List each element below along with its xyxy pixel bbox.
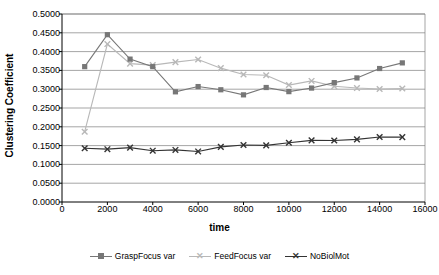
legend-item[interactable]: ✕NoBiolMot	[285, 251, 349, 261]
legend-marker-icon	[90, 252, 112, 261]
legend-marker-icon: ✕	[285, 252, 307, 261]
legend-label: NoBiolMot	[310, 251, 349, 261]
data-point-marker	[82, 64, 87, 69]
data-point-marker	[354, 75, 359, 80]
data-point-marker	[127, 57, 132, 62]
x-tick-label: 2000	[87, 205, 127, 214]
x-tick-label: 16000	[405, 205, 439, 214]
x-tick-label: 0	[42, 205, 82, 214]
data-point-marker	[173, 89, 178, 94]
x-tick-label: 6000	[178, 205, 218, 214]
data-point-marker	[196, 84, 201, 89]
data-point-marker	[150, 64, 155, 69]
legend-item[interactable]: ✕FeedFocus var	[189, 251, 271, 261]
data-point-marker	[286, 89, 291, 94]
data-point-marker	[105, 32, 110, 37]
data-point-marker	[264, 85, 269, 90]
data-point-marker	[400, 60, 405, 65]
data-point-marker	[241, 92, 246, 97]
data-point-marker	[377, 66, 382, 71]
legend-label: GraspFocus var	[115, 251, 175, 261]
clustering-coefficient-chart: Clustering Coefficient 0.00000.05000.100…	[0, 0, 439, 275]
data-point-marker	[332, 80, 337, 85]
chart-legend: GraspFocus var✕FeedFocus var✕NoBiolMot	[0, 251, 439, 261]
data-point-marker	[309, 85, 314, 90]
x-tick-label: 4000	[133, 205, 173, 214]
x-axis-title: time	[0, 222, 439, 233]
x-tick-label: 8000	[224, 205, 264, 214]
data-point-marker	[218, 87, 223, 92]
legend-marker-icon: ✕	[189, 252, 211, 261]
x-tick-label: 10000	[269, 205, 309, 214]
x-tick-label: 12000	[314, 205, 354, 214]
x-tick-label: 14000	[360, 205, 400, 214]
legend-item[interactable]: GraspFocus var	[90, 251, 175, 261]
legend-label: FeedFocus var	[214, 251, 271, 261]
